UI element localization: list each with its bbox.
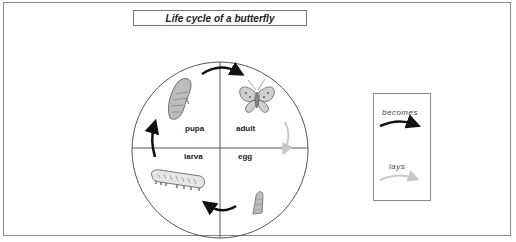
- cycle-circle: [132, 62, 308, 238]
- legend-label-lays: lays: [389, 162, 405, 171]
- arrow-egg-to-larva: [208, 205, 236, 210]
- legend-label-becomes: becomes: [382, 108, 418, 117]
- stage-label-egg: egg: [238, 152, 252, 161]
- stage-label-adult: adult: [236, 124, 255, 133]
- stage-label-larva: larva: [184, 152, 203, 161]
- arrow-larva-to-pupa: [152, 126, 155, 157]
- pupa-icon: [168, 79, 191, 120]
- butterfly-icon: [240, 79, 275, 112]
- stage-label-pupa: pupa: [185, 124, 204, 133]
- egg-icon: [253, 192, 263, 214]
- arrow-adult-to-egg: [285, 122, 289, 150]
- life-cycle-diagram: [0, 0, 516, 242]
- caterpillar-icon: [151, 170, 204, 191]
